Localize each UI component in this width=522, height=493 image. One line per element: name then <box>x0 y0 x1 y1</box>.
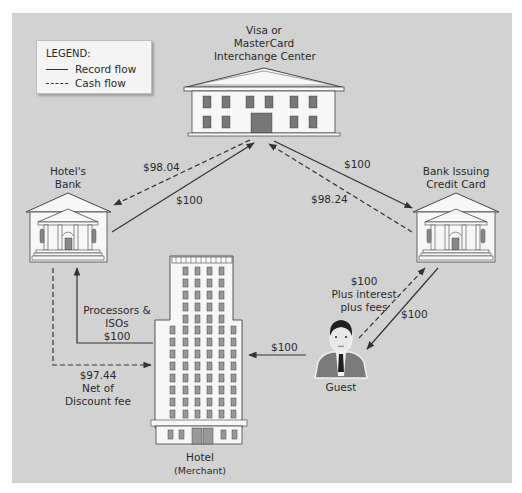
label-line: plus fees <box>326 301 402 314</box>
legend-label: Cash flow <box>75 77 126 89</box>
label-line: Visa or <box>214 24 314 37</box>
hotels-bank-icon <box>26 193 111 262</box>
flow-amount-guest-to-hotel: $100 <box>271 341 298 354</box>
cash-flow-issuer-to-interchange <box>269 144 412 232</box>
legend-title: LEGEND: <box>46 48 91 59</box>
label-line: Hotel <box>165 451 235 464</box>
interchange-building-icon <box>184 68 344 136</box>
label-line: ISOs <box>80 317 154 330</box>
legend: LEGEND: Record flow Cash flow <box>36 40 152 94</box>
label-line: Bank Issuing <box>416 165 496 178</box>
flow-amount-98-04: $98.04 <box>143 161 180 174</box>
issuing-bank-label: Bank Issuing Credit Card <box>416 165 496 191</box>
label-line: Credit Card <box>416 178 496 191</box>
flow-amount-issuer-to-guest: $100 <box>401 308 428 321</box>
label-line: Processors & <box>80 304 154 317</box>
guest-label: Guest <box>316 381 366 394</box>
hotel-label: Hotel (Merchant) <box>165 451 235 477</box>
guest-to-issuer-label: $100 Plus interest plus fees <box>326 275 402 314</box>
label-line: $100 <box>80 330 154 343</box>
legend-label: Record flow <box>75 63 136 75</box>
hotels-bank-label: Hotel's Bank <box>38 165 98 191</box>
processors-isos-label: Processors & ISOs $100 <box>80 304 154 343</box>
label-line: (Merchant) <box>165 464 235 477</box>
label-line: MasterCard <box>214 37 314 50</box>
hotel-skyscraper-icon <box>151 256 247 444</box>
label-line: Bank <box>38 178 98 191</box>
legend-item-cash-flow: Cash flow <box>46 77 126 89</box>
label-line: Plus interest <box>326 288 402 301</box>
interchange-label: Visa or MasterCard Interchange Center <box>214 24 314 63</box>
label-line: Discount fee <box>62 395 134 408</box>
flow-amount-hotels-bank-100: $100 <box>176 194 203 207</box>
issuing-bank-icon <box>413 193 499 262</box>
label-line: Interchange Center <box>214 50 314 63</box>
dashed-line-icon <box>46 83 68 84</box>
guest-person-icon <box>315 320 367 378</box>
label-line: Net of <box>62 382 134 395</box>
flow-amount-98-24: $98.24 <box>311 193 348 206</box>
solid-line-icon <box>46 69 68 70</box>
label-line: Hotel's <box>38 165 98 178</box>
record-flow-hotels-bank-to-interchange <box>112 143 254 232</box>
net-discount-label: $97.44 Net of Discount fee <box>62 369 134 408</box>
label-line: $100 <box>326 275 402 288</box>
legend-item-record-flow: Record flow <box>46 63 136 75</box>
flow-amount-interchange-100: $100 <box>344 158 371 171</box>
label-line: $97.44 <box>62 369 134 382</box>
